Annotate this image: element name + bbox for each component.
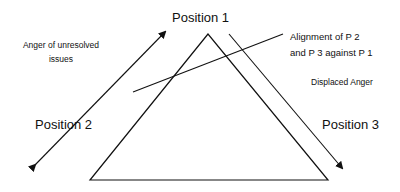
triangle-diagram: Position 1 Position 2 Position 3 Anger o…: [0, 0, 400, 192]
diagram-lines: [0, 0, 400, 192]
anger-unresolved-label: Anger of unresolved issues: [18, 40, 104, 64]
alignment-label: Alignment of P 2 and P 3 against P 1: [290, 31, 373, 59]
anger-label-line-1: Anger of unresolved: [18, 40, 104, 51]
alignment-label-line-2: and P 3 against P 1: [290, 47, 373, 59]
anger-label-line-2: issues: [18, 54, 104, 65]
displaced-anger-label: Displaced Anger: [311, 77, 373, 88]
alignment-label-line-1: Alignment of P 2: [290, 31, 373, 43]
position-1-label: Position 1: [172, 10, 229, 26]
position-2-label: Position 2: [35, 117, 92, 133]
alignment-line: [133, 34, 283, 92]
position-3-label: Position 3: [322, 117, 379, 133]
